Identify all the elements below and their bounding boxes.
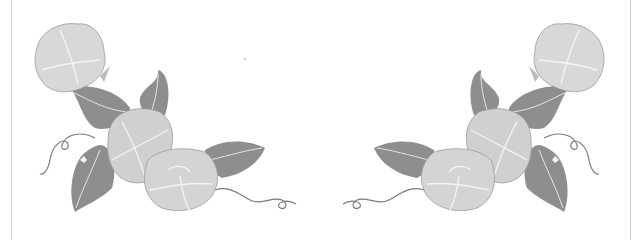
- morning-glory-spray-left: [0, 0, 320, 240]
- morning-glory-illustration-icon: [35, 24, 296, 212]
- morning-glory-illustration-icon: [343, 24, 604, 212]
- morning-glory-spray-right: [319, 0, 639, 240]
